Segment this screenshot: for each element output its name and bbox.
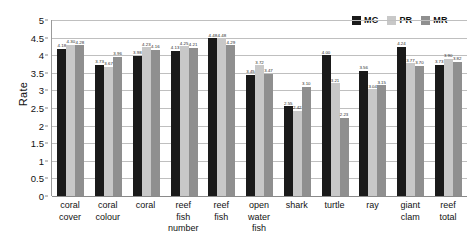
y-tick-label: 1.5	[31, 138, 44, 149]
bar-value-label: 3.47	[264, 68, 273, 73]
x-axis-label-line: total	[430, 212, 466, 224]
bar-value-label: 3.73	[95, 59, 104, 64]
bar-mr: 4.29	[226, 45, 235, 196]
y-tick-mark	[45, 160, 48, 161]
bar-value-label: 3.21	[331, 78, 340, 83]
bar-group: 2.552.423.10	[278, 20, 316, 196]
bar-mc: 4.18	[57, 49, 66, 196]
bar-value-label: 3.73	[435, 59, 444, 64]
bar-mc: 4.48	[208, 38, 217, 196]
bar-value-label: 4.48	[218, 33, 227, 38]
bar-mr: 4.28	[75, 45, 84, 196]
bar-group: 4.184.304.28	[52, 20, 90, 196]
bar-value-label: 3.70	[415, 60, 424, 65]
y-tick-label: 1	[39, 155, 44, 166]
bar-value-label: 3.15	[377, 80, 386, 85]
bar-mr: 3.47	[264, 74, 273, 196]
y-tick-label: 2.5	[31, 103, 44, 114]
bar-value-label: 4.21	[189, 42, 198, 47]
bar-mc: 3.98	[133, 56, 142, 196]
x-axis-label: openwaterfish	[240, 200, 278, 235]
x-axis-label-line: fish	[203, 212, 239, 224]
bar-pr: 3.04	[368, 89, 377, 196]
bar-value-label: 3.67	[104, 61, 113, 66]
bar-mr: 2.23	[340, 118, 349, 196]
bar-pr: 3.90	[444, 59, 453, 196]
bar-value-label: 3.82	[453, 56, 462, 61]
x-axis-label-line: reef	[430, 200, 466, 212]
x-axis-label: reeffishnumber	[164, 200, 202, 235]
bar-group: 3.733.903.82	[429, 20, 467, 196]
bar-mr: 3.82	[453, 62, 462, 196]
y-tick-label: 3	[39, 85, 44, 96]
x-axis-label-line: open	[241, 200, 277, 212]
bar-pr: 4.30	[66, 45, 75, 196]
bar-group: 3.733.673.96	[90, 20, 128, 196]
x-axis-label: shark	[278, 200, 316, 235]
bar-value-label: 3.77	[406, 58, 415, 63]
bar-chart: MCPRMR Rate 54.543.532.521.510.50 4.184.…	[0, 0, 474, 249]
x-axis-label: giantclam	[391, 200, 429, 235]
bar-group: 4.243.773.70	[392, 20, 430, 196]
y-tick-label: 4	[39, 50, 44, 61]
bar-groups: 4.184.304.283.733.673.963.984.234.164.13…	[52, 20, 467, 196]
y-tick-mark	[45, 55, 48, 56]
bar-mc: 4.00	[322, 55, 331, 196]
bar-mc: 3.56	[359, 71, 368, 196]
bar-value-label: 4.48	[209, 33, 218, 38]
bar-value-label: 4.29	[227, 40, 236, 45]
bar-value-label: 4.25	[180, 41, 189, 46]
y-tick-label: 3.5	[31, 67, 44, 78]
y-tick-label: 2	[39, 120, 44, 131]
bar-group: 3.984.234.16	[127, 20, 165, 196]
bar-pr: 3.77	[406, 63, 415, 196]
bar-value-label: 2.42	[293, 105, 302, 110]
bar-mc: 3.73	[95, 65, 104, 196]
x-axis-label-line: coral	[128, 200, 164, 212]
bar-mr: 3.96	[113, 57, 122, 196]
bar-mr: 3.70	[415, 66, 424, 196]
x-axis-label-line: number	[165, 223, 201, 235]
bar-value-label: 4.28	[76, 40, 85, 45]
bar-mc: 3.73	[435, 65, 444, 196]
y-axis-ticks: 54.543.532.521.510.50	[22, 20, 48, 196]
bar-value-label: 4.00	[322, 50, 331, 55]
y-tick-mark	[45, 108, 48, 109]
x-axis-label-line: clam	[392, 212, 428, 224]
bar-pr: 3.72	[255, 65, 264, 196]
bar-value-label: 4.30	[67, 39, 76, 44]
gridline	[52, 196, 467, 197]
x-axis-label: ray	[354, 200, 392, 235]
bar-pr: 3.21	[331, 83, 340, 196]
y-tick-mark	[45, 125, 48, 126]
x-axis-label-line: ray	[355, 200, 391, 212]
bar-group: 3.453.723.47	[241, 20, 279, 196]
bar-value-label: 4.18	[58, 43, 67, 48]
x-axis-label: coralcover	[51, 200, 89, 235]
x-axis-label-line: reef	[203, 200, 239, 212]
y-tick-mark	[45, 37, 48, 38]
y-tick-mark	[45, 72, 48, 73]
x-axis-label-line: colour	[90, 212, 126, 224]
bar-value-label: 4.16	[151, 44, 160, 49]
bar-mc: 4.24	[397, 47, 406, 196]
x-axis-label-line: coral	[52, 200, 88, 212]
x-axis-label-line: cover	[52, 212, 88, 224]
bar-pr: 3.67	[104, 67, 113, 196]
bar-group: 4.134.254.21	[165, 20, 203, 196]
bar-value-label: 4.23	[142, 42, 151, 47]
bar-value-label: 3.96	[113, 51, 122, 56]
bar-value-label: 3.56	[359, 65, 368, 70]
y-tick-mark	[45, 90, 48, 91]
y-tick-label: 0	[39, 191, 44, 202]
bar-mr: 4.21	[189, 48, 198, 196]
x-axis-label-line: turtle	[317, 200, 353, 212]
x-axis-label-line: giant	[392, 200, 428, 212]
plot-area: 4.184.304.283.733.673.963.984.234.164.13…	[51, 20, 467, 196]
x-axis-label: reeffish	[202, 200, 240, 235]
y-tick-mark	[45, 196, 48, 197]
x-axis-label-line: reef	[165, 200, 201, 212]
bar-mc: 2.55	[284, 106, 293, 196]
bar-value-label: 3.04	[368, 84, 377, 89]
bar-group: 3.563.043.15	[354, 20, 392, 196]
